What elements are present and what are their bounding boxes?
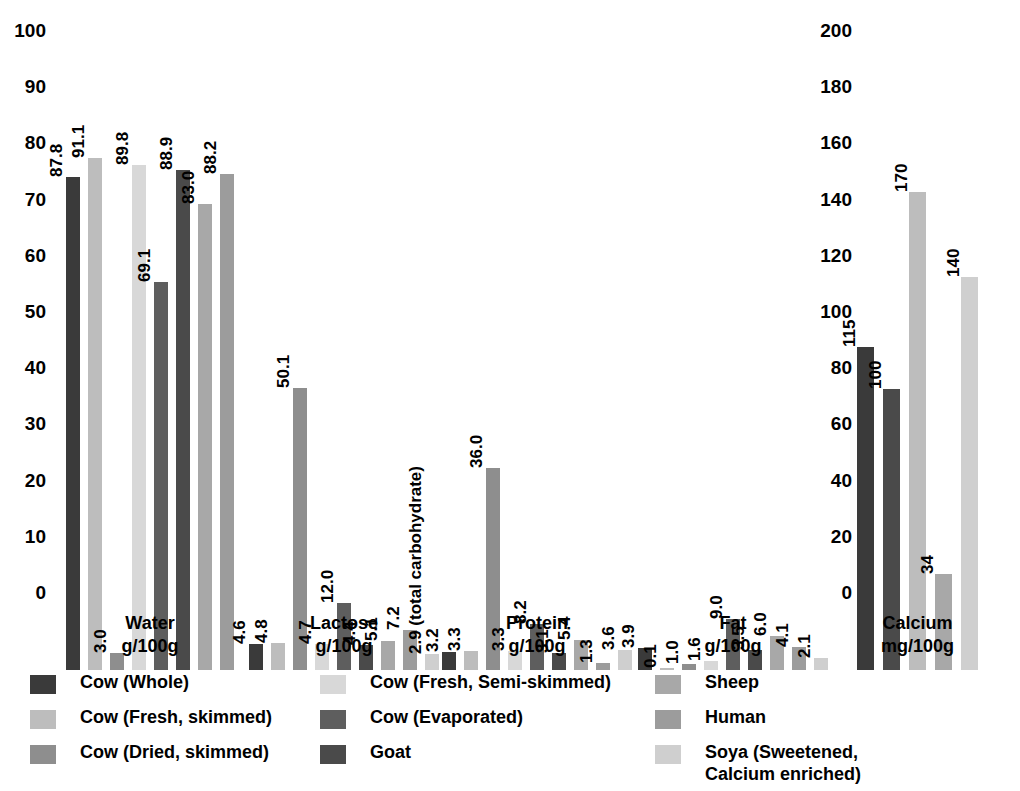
bar-value-label: 36.0: [476, 451, 493, 484]
legend-item[interactable]: Cow (Fresh, skimmed): [30, 707, 272, 733]
bar-slot: 4.6: [249, 78, 263, 670]
bar-value-label: 83.0: [188, 187, 205, 220]
bar-group-calcium: 11510017034140: [857, 0, 978, 670]
bar-water-8[interactable]: 88.2: [220, 174, 234, 670]
legend-item[interactable]: Cow (Evaporated): [320, 707, 611, 733]
legend-item[interactable]: Human: [655, 707, 861, 733]
legend-item[interactable]: Cow (Fresh, Semi-skimmed): [320, 672, 611, 698]
bar-water-6[interactable]: 88.9: [176, 170, 190, 670]
legend-item[interactable]: Soya (Sweetened, Calcium enriched): [655, 742, 861, 768]
bar-water-2[interactable]: 91.1: [88, 158, 102, 670]
group-caption-protein: Proteing/100g: [437, 612, 637, 657]
bar-slot: 5.1: [381, 78, 395, 670]
chart-page: 1009080706050403020100 87.891.13.089.869…: [0, 0, 1020, 791]
bar-water-1[interactable]: 87.8: [66, 177, 80, 670]
bar-slot: 91.1: [88, 78, 102, 670]
legend-label: Human: [705, 707, 766, 729]
group-caption-line1: Water: [50, 612, 250, 635]
legend-item[interactable]: Sheep: [655, 672, 861, 698]
bar-slot: 3.1: [552, 78, 566, 670]
legend-label: Goat: [370, 742, 411, 764]
bar-group-lactose: 4.64.850.14.712.04.45.17.22.9 (total car…: [249, 0, 439, 670]
legend-swatch-icon: [30, 675, 56, 694]
legend-item[interactable]: Goat: [320, 742, 611, 768]
bar-value-label: 115: [849, 333, 866, 360]
bar-fat-4[interactable]: 1.6: [704, 661, 718, 670]
bar-slot: 34: [935, 78, 952, 670]
bar-slot: 3.9: [638, 78, 652, 670]
bar-group-water: 87.891.13.089.869.188.983.088.2: [66, 0, 234, 670]
bar-slot: 1.0: [682, 78, 696, 670]
legend-item[interactable]: Cow (Whole): [30, 672, 272, 698]
bar-slot: 3.3: [464, 78, 478, 670]
legend-swatch-icon: [320, 675, 346, 694]
bar-slot: 9.0: [726, 78, 740, 670]
bar-protein-8[interactable]: 1.3: [596, 663, 610, 670]
legend-swatch-icon: [320, 710, 346, 729]
bar-slot: 3.5: [748, 78, 762, 670]
legend-swatch-icon: [30, 745, 56, 764]
group-caption-calcium: Calciummg/100g: [818, 612, 1018, 657]
bar-group-protein: 3.23.336.03.38.23.15.41.33.6: [442, 0, 632, 670]
legend-label: Soya (Sweetened, Calcium enriched): [705, 742, 861, 786]
bar-slot: 1.3: [596, 78, 610, 670]
bar-slot: 12.0: [337, 78, 351, 670]
bar-slot: 3.6: [618, 78, 632, 670]
group-caption-line1: Protein: [437, 612, 637, 635]
bar-value-label: 89.8: [122, 149, 139, 182]
group-caption-line2: g/100g: [50, 635, 250, 658]
bar-calcium-5[interactable]: 140: [961, 277, 978, 670]
bar-slot: 3.3: [508, 78, 522, 670]
bar-value-label: 140: [953, 262, 970, 290]
legend-swatch-icon: [30, 710, 56, 729]
left-plot-panel: 1009080706050403020100 87.891.13.089.869…: [0, 0, 800, 670]
group-caption-line2: g/100g: [244, 635, 444, 658]
bar-value-label: 91.1: [78, 141, 95, 174]
bar-value-label: 170: [901, 178, 918, 206]
bar-water-4[interactable]: 89.8: [132, 165, 146, 670]
bar-slot: 4.4: [359, 78, 373, 670]
bar-water-7[interactable]: 83.0: [198, 204, 212, 670]
legend-label: Cow (Fresh, skimmed): [80, 707, 272, 729]
group-caption-line2: mg/100g: [818, 635, 1018, 658]
bar-slot: 89.8: [132, 78, 146, 670]
bar-slot: 2.9 (total carbohydrate): [425, 78, 439, 670]
legend-label: Sheep: [705, 672, 759, 694]
bar-slot: 140: [961, 78, 978, 670]
bar-value-label: 69.1: [144, 265, 161, 298]
group-caption-lactose: Lactoseg/100g: [244, 612, 444, 657]
legend-label: Cow (Dried, skimmed): [80, 742, 269, 764]
group-caption-line1: Calcium: [818, 612, 1018, 635]
left-plot-area: 87.891.13.089.869.188.983.088.2Waterg/10…: [0, 0, 800, 670]
legend-label: Cow (Whole): [80, 672, 189, 694]
group-caption-line1: Lactose: [244, 612, 444, 635]
bar-value-label: 50.1: [283, 372, 300, 405]
legend-item[interactable]: Cow (Dried, skimmed): [30, 742, 272, 768]
bar-slot: 0.1: [660, 78, 674, 670]
bar-slot: 88.2: [220, 78, 234, 670]
bar-slot: 6.0: [770, 78, 784, 670]
legend-swatch-icon: [655, 745, 681, 764]
bar-value-label: 88.2: [210, 158, 227, 191]
group-caption-water: Waterg/100g: [50, 612, 250, 657]
bar-slot: 3.2: [442, 78, 456, 670]
bar-slot: 1.6: [704, 78, 718, 670]
bar-value-label: 87.8: [56, 160, 73, 193]
bar-slot: 50.1: [293, 78, 307, 670]
bar-slot: 5.4: [574, 78, 588, 670]
legend-label: Cow (Fresh, Semi-skimmed): [370, 672, 611, 694]
bar-slot: 36.0: [486, 78, 500, 670]
right-plot-panel: 200180160140120100806040200 115100170341…: [800, 0, 1020, 670]
bar-slot: 88.9: [176, 78, 190, 670]
bar-slot: 8.2: [530, 78, 544, 670]
bar-calcium-3[interactable]: 170: [909, 192, 926, 670]
legend-swatch-icon: [655, 710, 681, 729]
group-caption-line2: g/100g: [437, 635, 637, 658]
legend-swatch-icon: [655, 675, 681, 694]
bar-value-label: 34: [927, 565, 944, 584]
chart-legend: Cow (Whole)Cow (Fresh, skimmed)Cow (Drie…: [0, 672, 1020, 791]
right-plot-area: 11510017034140Calciummg/100g: [800, 0, 1020, 670]
legend-swatch-icon: [320, 745, 346, 764]
legend-column-2: Cow (Fresh, Semi-skimmed)Cow (Evaporated…: [320, 672, 611, 777]
legend-column-3: SheepHumanSoya (Sweetened, Calcium enric…: [655, 672, 861, 777]
